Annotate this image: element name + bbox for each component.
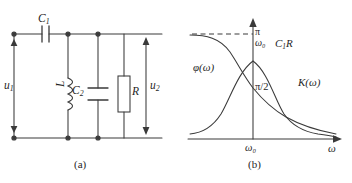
k-curve-label: K(ω) — [298, 77, 320, 88]
phi-curve-label: φ(ω) — [193, 62, 214, 73]
node-dot-inductor-bottom — [66, 136, 70, 140]
inductor-l-label: L — [55, 81, 67, 87]
peak-value-c1r-label: C1R — [275, 38, 293, 50]
pi-over-2-label: π/2 — [255, 82, 268, 93]
capacitor-c2-label: C2 — [72, 85, 84, 98]
peak-value-label: ω₀ — [255, 38, 266, 48]
node-dot-bottom-left — [12, 136, 16, 140]
figure-root: C1 L C2 R u1 u2 (a) — [0, 0, 352, 183]
u2-arrowhead-top — [143, 37, 150, 45]
resistor-r-label: R — [132, 86, 139, 98]
pi-label: π — [255, 27, 260, 37]
x-axis-label-omega: ω — [328, 143, 336, 154]
response-plot-panel: π ω₀ C1R π/2 φ(ω) K(ω) ω₀ ω (b) — [176, 0, 352, 183]
node-dot-inductor-top — [66, 32, 70, 36]
capacitor-c1-label: C1 — [38, 13, 50, 26]
u1-arrowhead-bottom — [11, 126, 18, 133]
u2-arrowhead-bottom — [143, 127, 150, 135]
caption-b: (b) — [248, 158, 261, 170]
node-dot-capacitor-bottom — [96, 136, 100, 140]
input-voltage-u1-label: u1 — [4, 80, 14, 93]
caption-a: (a) — [74, 158, 86, 170]
output-voltage-u2-label: u2 — [150, 80, 160, 93]
node-dot-capacitor-top — [96, 32, 100, 36]
circuit-diagram-panel: C1 L C2 R u1 u2 (a) — [0, 0, 176, 183]
node-dot-top-left — [12, 32, 16, 36]
resistor-r-body — [118, 76, 130, 112]
u1-arrowhead-top — [11, 39, 18, 46]
x-axis-tick-omega0: ω₀ — [245, 143, 256, 154]
